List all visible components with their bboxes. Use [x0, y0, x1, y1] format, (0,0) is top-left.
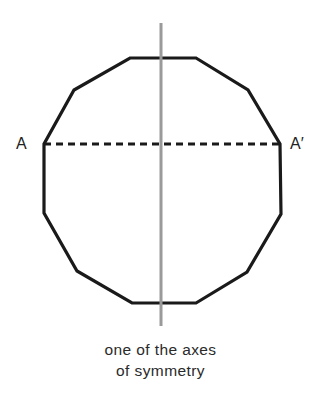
vertex-label-a-prime: A′ — [290, 136, 304, 152]
caption-line-2: of symmetry — [0, 361, 321, 381]
vertex-label-a: A — [16, 136, 27, 152]
caption-line-1: one of the axes — [0, 340, 321, 360]
